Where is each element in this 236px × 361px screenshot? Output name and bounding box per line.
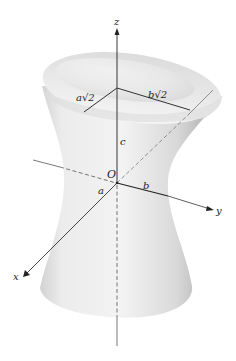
height-c-label: c [120, 136, 126, 147]
neg-y-axis-outside [33, 160, 60, 167]
z-axis-label: z [113, 16, 120, 27]
y-axis [168, 196, 210, 209]
y-axis-arrow-icon [206, 206, 214, 211]
z-axis-arrow-icon [115, 28, 120, 35]
top-a-sqrt2-label: a√2 [76, 92, 95, 103]
y-axis-label: y [215, 205, 222, 216]
origin-label: O [107, 168, 116, 181]
semi-axis-b-label: b [143, 180, 149, 191]
diagram-canvas: z y x O c a b a√2 b√2 [0, 0, 236, 361]
hyperboloid-diagram: z y x O c a b a√2 b√2 [0, 0, 236, 361]
semi-axis-a-label: a [98, 185, 104, 196]
top-b-sqrt2-label: b√2 [148, 89, 167, 100]
x-axis-label: x [13, 271, 19, 282]
origin-point [116, 182, 119, 185]
